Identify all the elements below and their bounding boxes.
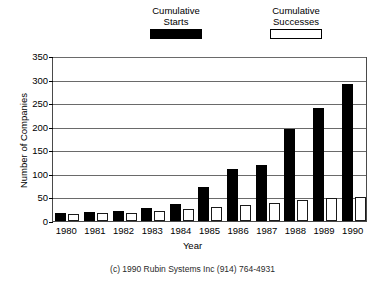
legend-label-line-1: Cumulative: [272, 5, 320, 16]
bar-group: [53, 58, 82, 221]
y-axis-tick-label: 350: [22, 52, 48, 62]
x-axis-tick-label: 1980: [52, 225, 81, 236]
bar-cumulative-successes: [183, 209, 194, 221]
legend-label-line-2: Starts: [164, 16, 189, 27]
y-axis-tick-label: 150: [22, 146, 48, 156]
bar-cumulative-starts: [170, 204, 181, 221]
legend-entry-cumulative-successes: Cumulative Successes: [250, 5, 342, 47]
legend-entry-cumulative-starts: Cumulative Starts: [130, 5, 222, 47]
x-axis-tick-label: 1983: [138, 225, 167, 236]
bar-cumulative-successes: [154, 211, 165, 221]
bar-cumulative-successes: [126, 213, 137, 221]
x-axis-tick-label: 1988: [281, 225, 310, 236]
x-axis-tick-label: 1986: [224, 225, 253, 236]
bar-group: [82, 58, 111, 221]
y-axis-tick-mark: [49, 222, 53, 223]
bar-group: [339, 58, 368, 221]
legend-swatch-starts: [150, 29, 202, 39]
chart-figure: Cumulative Starts Cumulative Successes N…: [0, 0, 385, 285]
x-axis-tick-label: 1989: [310, 225, 339, 236]
bar-group: [282, 58, 311, 221]
bar-group: [253, 58, 282, 221]
chart-caption: (c) 1990 Rubin Systems Inc (914) 764-493…: [0, 264, 385, 274]
bar-cumulative-successes: [355, 197, 366, 222]
y-axis-tick-label: 250: [22, 99, 48, 109]
bar-group: [110, 58, 139, 221]
bar-cumulative-successes: [326, 198, 337, 221]
bar-group: [225, 58, 254, 221]
y-axis-tick-label: 50: [22, 193, 48, 203]
bar-cumulative-starts: [55, 213, 66, 221]
bar-cumulative-successes: [297, 200, 308, 221]
bar-group: [139, 58, 168, 221]
bar-cumulative-successes: [211, 207, 222, 221]
bar-cumulative-starts: [342, 84, 353, 221]
bar-cumulative-starts: [198, 187, 209, 221]
legend-label-line-2: Successes: [273, 16, 319, 27]
x-axis-label: Year: [0, 240, 385, 251]
bar-cumulative-starts: [227, 169, 238, 221]
y-axis-tick-label: 200: [22, 123, 48, 133]
x-axis-tick-labels: 1980198119821983198419851986198719881989…: [52, 225, 367, 239]
x-axis-tick-label: 1985: [195, 225, 224, 236]
x-axis-tick-label: 1981: [81, 225, 110, 236]
legend-swatch-successes: [270, 29, 322, 39]
legend-label-line-1: Cumulative: [152, 5, 200, 16]
bar-cumulative-successes: [97, 213, 108, 221]
bar-cumulative-successes: [68, 214, 79, 221]
bar-cumulative-successes: [240, 205, 251, 221]
x-axis-tick-label: 1984: [167, 225, 196, 236]
x-axis-tick-label: 1987: [252, 225, 281, 236]
bar-cumulative-successes: [269, 203, 280, 221]
x-axis-tick-label: 1982: [109, 225, 138, 236]
bar-cumulative-starts: [313, 108, 324, 221]
bar-group: [311, 58, 340, 221]
plot-area: [52, 57, 367, 222]
bar-cumulative-starts: [113, 211, 124, 221]
chart-legend: Cumulative Starts Cumulative Successes: [130, 5, 365, 47]
bar-cumulative-starts: [284, 129, 295, 221]
bar-group: [196, 58, 225, 221]
bar-cumulative-starts: [84, 212, 95, 221]
bar-cumulative-starts: [141, 208, 152, 221]
bar-cumulative-starts: [256, 165, 267, 221]
y-axis-tick-label: 100: [22, 170, 48, 180]
y-axis-tick-label: 300: [22, 76, 48, 86]
y-axis-tick-label: 0: [22, 217, 48, 227]
bar-group: [168, 58, 197, 221]
x-axis-tick-label: 1990: [338, 225, 367, 236]
